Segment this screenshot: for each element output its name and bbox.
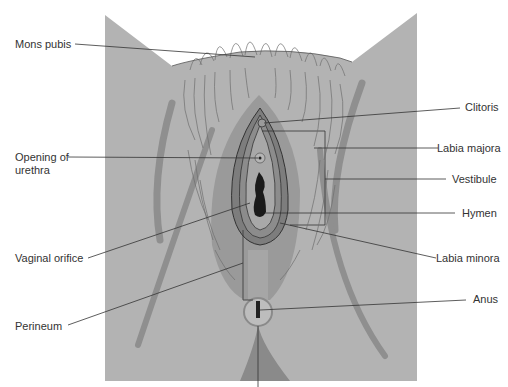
label-mons-pubis: Mons pubis	[15, 38, 71, 51]
anatomy-diagram	[0, 0, 508, 387]
label-opening-of-urethra: Opening of urethra	[15, 151, 69, 177]
label-hymen: Hymen	[462, 207, 497, 220]
label-vestibule: Vestibule	[452, 173, 497, 186]
label-anus: Anus	[473, 293, 498, 306]
label-clitoris: Clitoris	[465, 101, 499, 114]
label-opening-of-urethra-line2: urethra	[15, 164, 69, 177]
anus-mark	[256, 301, 260, 318]
label-labia-majora: Labia majora	[437, 142, 501, 155]
urethra-dot	[259, 157, 262, 160]
label-vaginal-orifice: Vaginal orifice	[15, 252, 83, 265]
label-perineum: Perineum	[15, 320, 62, 333]
label-opening-of-urethra-line1: Opening of	[15, 151, 69, 164]
label-labia-minora: Labia minora	[436, 252, 500, 265]
